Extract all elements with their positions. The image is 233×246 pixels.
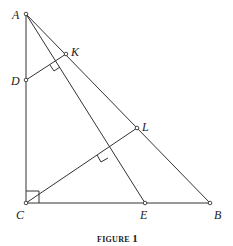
figure-caption-word: FIGURE — [97, 235, 130, 244]
point-c — [24, 201, 28, 205]
label-c: C — [16, 208, 25, 222]
point-k — [64, 52, 68, 56]
point-a — [24, 12, 28, 16]
figure-caption: FIGURE 1 — [97, 232, 138, 244]
segment-cl — [26, 128, 137, 203]
segment-ae — [26, 14, 145, 203]
label-k: K — [70, 45, 80, 59]
point-l — [135, 126, 139, 130]
point-b — [208, 201, 212, 205]
label-a: A — [11, 8, 20, 22]
point-d — [24, 78, 28, 82]
figure-caption-number: 1 — [132, 232, 138, 244]
label-e: E — [139, 208, 148, 222]
geometry-figure: A D K L C E B FIGURE 1 — [0, 0, 233, 246]
label-d: D — [10, 74, 20, 88]
point-e — [143, 201, 147, 205]
label-l: L — [141, 120, 149, 134]
segment-ab — [26, 14, 210, 203]
right-angle-marker-cl — [97, 155, 108, 162]
label-b: B — [214, 208, 222, 222]
